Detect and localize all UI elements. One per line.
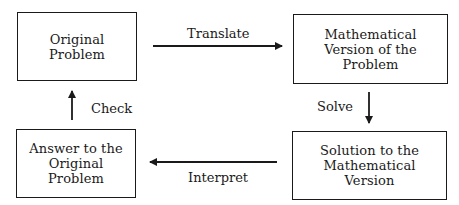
edge-label-translate: Translate [187, 26, 250, 41]
node-answer: Answer to the Original Problem [16, 129, 136, 198]
node-solution: Solution to the Mathematical Version [292, 131, 447, 200]
node-label: Mathematical Version of the Problem [324, 27, 417, 72]
edge-label-solve: Solve [317, 99, 353, 114]
node-label: Answer to the Original Problem [29, 141, 122, 186]
edge-label-check: Check [91, 101, 132, 116]
node-label: Original Problem [49, 32, 105, 62]
node-mathematical-version: Mathematical Version of the Problem [293, 14, 448, 84]
node-original-problem: Original Problem [17, 12, 137, 81]
node-label: Solution to the Mathematical Version [320, 143, 419, 188]
edge-label-interpret: Interpret [188, 170, 248, 185]
